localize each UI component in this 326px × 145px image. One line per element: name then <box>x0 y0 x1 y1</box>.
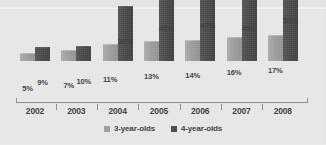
series-4-year-olds-swatch <box>171 126 177 132</box>
bar-4-year-olds-2002 <box>35 47 50 61</box>
x-axis-label-2002: 2002 <box>14 106 56 116</box>
bar-value-label-3-year-olds-2005: 13% <box>141 72 162 81</box>
legend-label-4-year-olds: 4-year-olds <box>181 124 222 133</box>
bar-value-label-4-year-olds-2008: 50% <box>280 16 301 25</box>
bar-3-year-olds-2005 <box>144 41 159 61</box>
bar-3-year-olds-2007 <box>227 37 242 61</box>
x-axis-label-2004: 2004 <box>97 106 139 116</box>
series-3-year-olds-swatch <box>104 126 110 132</box>
x-axis-label-2005: 2005 <box>138 106 180 116</box>
bar-4-year-olds-2008 <box>283 0 298 61</box>
legend-item-3-year-olds[interactable]: 3-year-olds <box>104 124 155 133</box>
bar-value-label-3-year-olds-2006: 14% <box>182 71 203 80</box>
axis-start-cap <box>16 98 17 103</box>
bar-value-label-4-year-olds-2005: 45% <box>156 24 177 33</box>
plot-area: 5%9%7%10%11%36%13%45%14%47%16%45%17%50% <box>0 0 326 104</box>
x-axis-label-2006: 2006 <box>179 106 221 116</box>
bar-value-label-4-year-olds-2007: 45% <box>239 24 260 33</box>
x-axis-baseline <box>16 102 308 103</box>
bar-3-year-olds-2004 <box>103 44 118 61</box>
bar-3-year-olds-2002 <box>20 53 35 61</box>
x-axis-label-2008: 2008 <box>262 106 304 116</box>
x-axis-label-2007: 2007 <box>221 106 263 116</box>
chart-legend: 3-year-olds 4-year-olds <box>0 124 326 133</box>
x-axis-label-2003: 2003 <box>55 106 97 116</box>
bar-value-label-4-year-olds-2002: 9% <box>32 78 53 87</box>
bar-value-label-3-year-olds-2004: 11% <box>100 75 121 84</box>
axis-end-cap <box>307 98 308 103</box>
bar-value-label-3-year-olds-2007: 16% <box>224 68 245 77</box>
bar-value-label-3-year-olds-2008: 17% <box>265 66 286 75</box>
bar-4-year-olds-2003 <box>76 46 91 61</box>
bar-4-year-olds-2004 <box>118 6 133 61</box>
bar-3-year-olds-2008 <box>268 35 283 61</box>
legend-label-3-year-olds: 3-year-olds <box>114 124 155 133</box>
legend-item-4-year-olds[interactable]: 4-year-olds <box>171 124 222 133</box>
bar-value-label-4-year-olds-2003: 10% <box>73 77 94 86</box>
bar-4-year-olds-2006 <box>200 0 215 61</box>
bar-chart: 5%9%7%10%11%36%13%45%14%47%16%45%17%50% … <box>0 0 326 145</box>
bar-value-label-4-year-olds-2006: 47% <box>197 21 218 30</box>
bar-value-label-4-year-olds-2004: 36% <box>115 37 136 46</box>
bar-3-year-olds-2006 <box>185 40 200 61</box>
bar-3-year-olds-2003 <box>61 50 76 61</box>
